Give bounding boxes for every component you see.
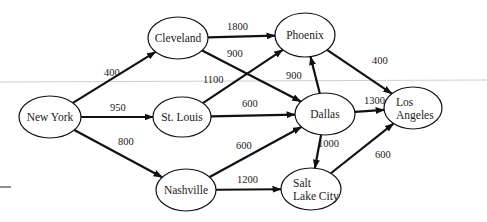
edge-weight-label: 900 — [286, 70, 302, 81]
node-label: New York — [27, 111, 74, 123]
edge-weight-label: 1100 — [203, 74, 224, 85]
edge-weight-label: 600 — [242, 98, 258, 109]
edge-dallas-to-los-angeles: 1300 — [355, 95, 385, 112]
node-label: Phoenix — [286, 29, 324, 41]
node-label: Dallas — [310, 108, 340, 120]
scan-artifact-line — [0, 80, 487, 82]
edge-nashville-to-salt-lake-city: 1200 — [216, 174, 281, 190]
edge-st-louis-to-dallas: 600 — [211, 98, 295, 116]
edge-weight-label: 950 — [110, 102, 126, 113]
edge-arrow — [211, 115, 295, 117]
edge-arrow — [208, 36, 275, 38]
edge-weight-label: 900 — [227, 48, 243, 59]
edge-weight-label: 1800 — [227, 21, 248, 32]
edge-arrow — [355, 110, 384, 112]
node-phoenix: Phoenix — [275, 13, 335, 57]
edge-new-york-to-nashville: 800 — [74, 130, 162, 177]
edge-new-york-to-st-louis: 950 — [81, 102, 153, 117]
node-label: St. Louis — [161, 111, 203, 123]
edge-arrow — [216, 189, 281, 190]
edge-cleveland-to-phoenix: 1800 — [208, 21, 275, 37]
node-label: Angeles — [396, 109, 434, 122]
node-label: Salt — [293, 177, 312, 189]
nodes-layer: New YorkClevelandPhoenixSt. LouisDallasL… — [19, 13, 442, 211]
edge-weight-label: 1000 — [318, 138, 339, 149]
edge-arrow — [310, 57, 319, 94]
edge-weight-label: 600 — [236, 140, 252, 151]
edge-weight-label: 600 — [375, 149, 391, 160]
node-nashville: Nashville — [156, 169, 216, 211]
node-salt-lake-city: SaltLake City — [281, 168, 341, 210]
node-los-angeles: LosAngeles — [384, 87, 442, 129]
edge-arrow — [210, 127, 302, 177]
node-cleveland: Cleveland — [148, 17, 208, 59]
node-label: Nashville — [164, 184, 208, 196]
edge-dallas-to-phoenix: 900 — [286, 57, 320, 94]
node-dallas: Dallas — [295, 93, 355, 135]
node-label: Cleveland — [155, 32, 202, 44]
edge-weight-label: 1300 — [364, 95, 385, 106]
edge-weight-label: 1200 — [237, 174, 258, 185]
node-st-louis: St. Louis — [153, 97, 211, 137]
edge-dallas-to-salt-lake-city: 1000 — [315, 135, 339, 168]
weighted-city-graph: 4009508001800900110060090040013006001000… — [0, 0, 487, 222]
edge-weight-label: 400 — [104, 67, 120, 78]
node-label: Lake City — [293, 190, 339, 203]
edge-weight-label: 800 — [118, 136, 134, 147]
edge-nashville-to-dallas: 600 — [210, 127, 302, 177]
edge-new-york-to-cleveland: 400 — [73, 52, 156, 103]
edge-phoenix-to-los-angeles: 400 — [327, 50, 392, 94]
edge-weight-label: 400 — [372, 55, 388, 66]
node-new-york: New York — [19, 96, 81, 138]
node-label: Los — [396, 96, 414, 108]
